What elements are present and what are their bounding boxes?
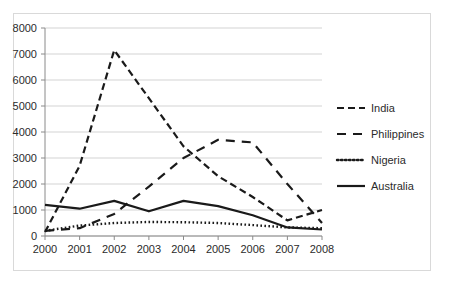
series-line-india [45,50,322,232]
line-chart: 010002000300040005000600070008000 200020… [0,0,450,286]
chart-screenshot: 010002000300040005000600070008000 200020… [0,0,450,286]
y-axis-ticks [41,28,45,236]
y-tick-label: 4000 [13,126,37,138]
legend-label: India [371,102,396,114]
legend-item-philippines[interactable]: Philippines [337,128,425,140]
y-tick-label: 7000 [13,48,37,60]
x-tick-label: 2004 [171,243,195,255]
legend-label: Australia [371,180,415,192]
gridlines [45,28,322,236]
y-tick-label: 8000 [13,22,37,34]
series-line-philippines [45,140,322,231]
data-series [45,50,322,232]
x-tick-label: 2000 [33,243,57,255]
legend-label: Philippines [371,128,425,140]
y-axis-tick-labels: 010002000300040005000600070008000 [13,22,37,242]
chart-legend: IndiaPhilippinesNigeriaAustralia [337,102,425,192]
x-tick-label: 2001 [67,243,91,255]
x-tick-label: 2006 [241,243,265,255]
x-tick-label: 2007 [275,243,299,255]
x-tick-label: 2005 [206,243,230,255]
x-tick-label: 2002 [102,243,126,255]
y-tick-label: 5000 [13,100,37,112]
y-tick-label: 2000 [13,178,37,190]
y-tick-label: 3000 [13,152,37,164]
x-tick-label: 2003 [137,243,161,255]
y-tick-label: 1000 [13,204,37,216]
series-line-nigeria [45,222,322,231]
x-tick-label: 2008 [310,243,334,255]
y-tick-label: 6000 [13,74,37,86]
legend-label: Nigeria [371,154,407,166]
legend-item-australia[interactable]: Australia [337,180,415,192]
x-axis-tick-labels: 200020012002200320042005200620072008 [33,243,334,255]
x-axis-ticks [45,236,322,240]
y-tick-label: 0 [31,230,37,242]
legend-item-nigeria[interactable]: Nigeria [337,154,407,166]
legend-item-india[interactable]: India [337,102,396,114]
